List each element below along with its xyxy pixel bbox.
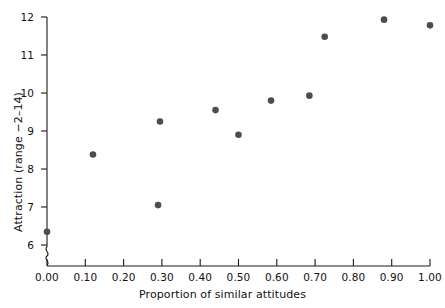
x-tick-label: 0.10 xyxy=(73,271,97,283)
data-point xyxy=(427,22,434,29)
y-tick-marks xyxy=(41,17,47,245)
data-point xyxy=(90,151,97,158)
scatter-plot-figure: 12 11 10 9 8 7 6 0.00 0.10 0.20 0.30 0.4… xyxy=(0,0,445,308)
data-point xyxy=(381,16,388,23)
data-point xyxy=(157,118,164,125)
x-tick-label: 0.50 xyxy=(227,271,251,283)
x-tick-label: 0.90 xyxy=(380,271,404,283)
y-axis-title: Attraction (range −2–14) xyxy=(12,92,25,232)
x-tick-label: 0.40 xyxy=(188,271,212,283)
data-point xyxy=(155,202,162,209)
data-point xyxy=(321,33,328,40)
x-axis-title: Proportion of similar attitudes xyxy=(0,288,445,301)
x-tick-label: 0.00 xyxy=(35,271,59,283)
x-tick-label: 0.70 xyxy=(303,271,327,283)
data-point xyxy=(235,132,242,139)
y-tick-label: 11 xyxy=(10,49,34,61)
x-tick-marks xyxy=(47,259,430,266)
y-tick-label: 6 xyxy=(10,239,34,251)
y-tick-label: 12 xyxy=(10,11,34,23)
x-tick-label: 0.30 xyxy=(150,271,174,283)
data-point xyxy=(306,92,313,99)
x-tick-label: 0.20 xyxy=(112,271,136,283)
x-tick-label: 1.00 xyxy=(418,271,442,283)
data-point-group xyxy=(44,16,434,235)
data-point xyxy=(212,107,219,114)
data-point xyxy=(268,97,275,104)
data-point xyxy=(44,228,51,235)
x-tick-label: 0.80 xyxy=(342,271,366,283)
x-tick-label: 0.60 xyxy=(265,271,289,283)
plot-canvas xyxy=(0,0,445,308)
